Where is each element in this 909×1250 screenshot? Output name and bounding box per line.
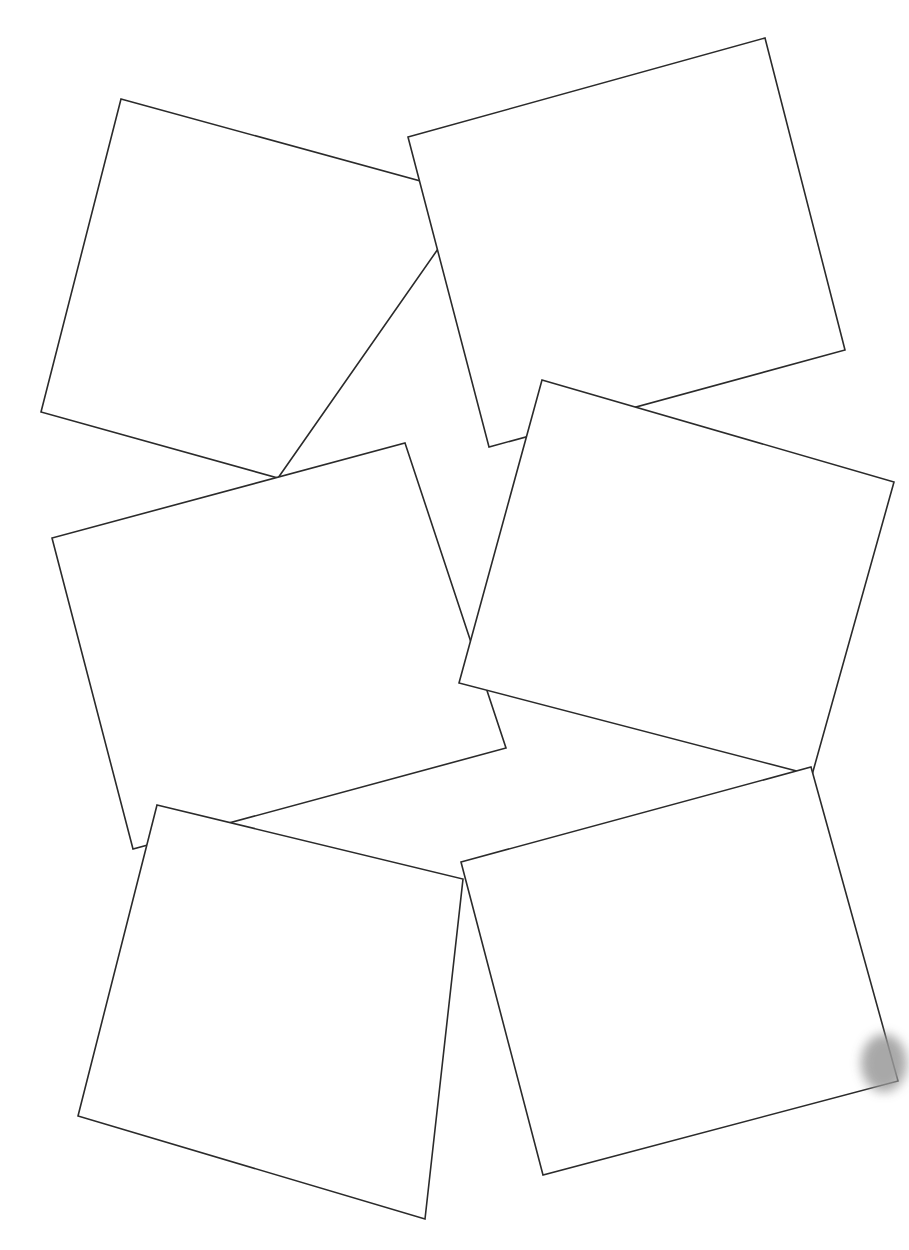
shapes-canvas [0, 0, 909, 1250]
shapes-svg [0, 0, 909, 1250]
artifact-group [861, 1034, 907, 1092]
blur-smudge-icon [861, 1034, 907, 1092]
